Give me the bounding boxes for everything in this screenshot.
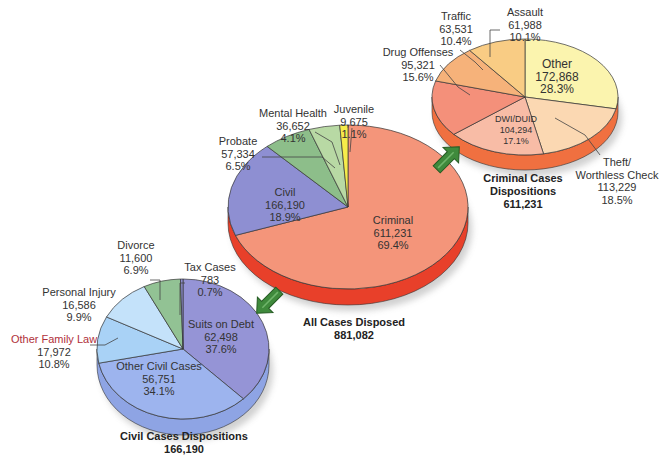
label-other-family-law: Other Family Law 17,972 10.8%: [11, 333, 97, 371]
label-tax-cases: Tax Cases 783 0.7%: [184, 261, 235, 299]
label-criminal: Criminal 611,231 69.4%: [373, 214, 413, 252]
label-mental-health: Mental Health 36,652 4.1%: [259, 107, 327, 145]
label-assault: Assault 61,988 10.1%: [507, 6, 543, 44]
label-civil: Civil 166,190 18.9%: [265, 186, 305, 224]
label-probate: Probate 57,334 6.5%: [219, 135, 258, 173]
caption-all-cases: All Cases Disposed 881,082: [303, 316, 405, 342]
label-theft: Theft/ Worthless Check 113,229 18.5%: [576, 156, 659, 206]
label-juvenile: Juvenile 9,675 1.1%: [334, 103, 374, 141]
label-personal-injury: Personal Injury 16,586 9.9%: [42, 286, 115, 324]
label-suits-on-debt: Suits on Debt 62,498 37.6%: [188, 318, 254, 356]
label-drug-offenses: Drug Offenses 95,321 15.6%: [383, 46, 454, 84]
label-other-civil-cases: Other Civil Cases 56,751 34.1%: [116, 360, 202, 398]
label-traffic: Traffic 63,531 10.4%: [439, 10, 473, 48]
label-dwi: DWI/DUID 104,294 17.1%: [495, 114, 537, 147]
caption-civil-cases: Civil Cases Dispositions 166,190: [120, 430, 248, 456]
label-divorce: Divorce 11,600 6.9%: [117, 239, 154, 277]
caption-criminal-cases: Criminal Cases Dispositions 611,231: [483, 172, 562, 211]
label-other: Other 172,868 28.3%: [535, 58, 578, 96]
